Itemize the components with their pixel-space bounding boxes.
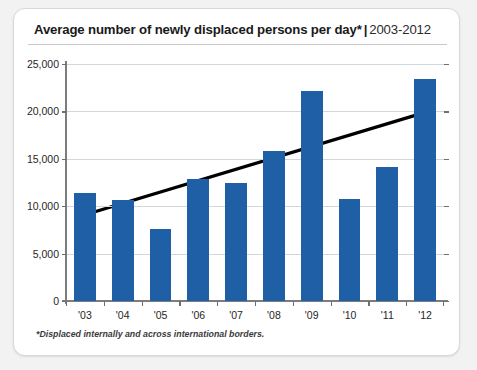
x-axis-tick bbox=[293, 301, 294, 306]
x-axis-tick bbox=[142, 301, 143, 306]
x-axis-tick-label: '12 bbox=[418, 309, 432, 321]
y-axis-tick-right bbox=[444, 111, 449, 112]
bar-09[interactable] bbox=[301, 91, 323, 301]
gridline bbox=[66, 111, 444, 112]
y-axis-tick-label: 15,000 bbox=[27, 153, 59, 165]
gridline bbox=[66, 159, 444, 160]
x-axis-tick-label: '10 bbox=[343, 309, 357, 321]
y-axis-tick bbox=[62, 64, 67, 65]
x-axis-tick bbox=[179, 301, 180, 306]
y-axis-tick-right bbox=[444, 206, 449, 207]
title-main: Average number of newly displaced person… bbox=[34, 22, 362, 37]
x-axis-tick-label: '05 bbox=[154, 309, 168, 321]
y-axis-tick-label: 5,000 bbox=[33, 248, 59, 260]
y-axis-tick bbox=[62, 206, 67, 207]
x-axis-tick-label: '11 bbox=[381, 309, 394, 321]
x-axis-tick bbox=[66, 301, 67, 306]
y-axis-tick-label: 20,000 bbox=[27, 105, 59, 117]
bar-12[interactable] bbox=[414, 79, 436, 301]
x-axis-tick bbox=[255, 301, 256, 306]
y-axis-tick-right bbox=[444, 254, 449, 255]
bar-08[interactable] bbox=[263, 151, 285, 301]
y-axis-tick bbox=[62, 111, 67, 112]
title-divider bbox=[28, 44, 447, 45]
x-axis-tick-label: '08 bbox=[267, 309, 281, 321]
x-axis-tick bbox=[443, 301, 444, 306]
x-axis-tick-label: '04 bbox=[116, 309, 130, 321]
y-axis-tick-label: 10,000 bbox=[27, 200, 59, 212]
y-axis-tick-right bbox=[444, 159, 449, 160]
gridline bbox=[66, 64, 444, 65]
x-axis-tick bbox=[104, 301, 105, 306]
x-axis-tick bbox=[331, 301, 332, 306]
chart-card: Average number of newly displaced person… bbox=[13, 8, 460, 356]
x-axis-tick bbox=[368, 301, 369, 306]
trendline-segment bbox=[85, 112, 425, 214]
x-axis-tick-label: '03 bbox=[78, 309, 92, 321]
bar-04[interactable] bbox=[112, 200, 134, 301]
bar-07[interactable] bbox=[225, 183, 247, 301]
y-axis-tick-label: 25,000 bbox=[27, 58, 59, 70]
y-axis-tick bbox=[62, 254, 67, 255]
x-axis-tick-label: '09 bbox=[305, 309, 319, 321]
x-axis-tick-label: '06 bbox=[191, 309, 205, 321]
y-axis-tick-right bbox=[444, 301, 449, 302]
y-axis-tick-label: 0 bbox=[53, 295, 59, 307]
bar-10[interactable] bbox=[339, 199, 361, 301]
chart-footnote: *Displaced internally and across interna… bbox=[36, 329, 264, 339]
bar-06[interactable] bbox=[187, 179, 209, 301]
x-axis-tick bbox=[406, 301, 407, 306]
bar-05[interactable] bbox=[150, 229, 172, 301]
title-year-range: 2003-2012 bbox=[369, 22, 431, 37]
y-axis-tick bbox=[62, 159, 67, 160]
y-axis-tick-right bbox=[444, 64, 449, 65]
bar-11[interactable] bbox=[376, 167, 398, 301]
x-axis-tick bbox=[217, 301, 218, 306]
bar-03[interactable] bbox=[74, 193, 96, 301]
page-title: Average number of newly displaced person… bbox=[34, 22, 431, 37]
x-axis-tick-label: '07 bbox=[229, 309, 243, 321]
chart-plot-area: 05,00010,00015,00020,00025,000'03'04'05'… bbox=[66, 64, 444, 301]
